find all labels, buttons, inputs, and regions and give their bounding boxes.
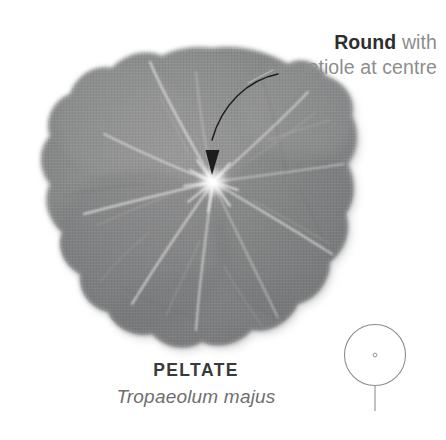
species-binomial: Tropaeolum majus (0, 386, 392, 408)
figure-caption: PELTATE Tropaeolum majus (0, 360, 392, 408)
annotation-line-1: Round with (297, 30, 437, 55)
leaf-shape-name: PELTATE (0, 360, 392, 381)
annotation-keyword: Round (334, 31, 396, 53)
annotation-text: Round with petiole at centre (297, 30, 437, 81)
annotation-line-1-rest: with (396, 31, 437, 53)
annotation-line-2: petiole at centre (297, 55, 437, 80)
